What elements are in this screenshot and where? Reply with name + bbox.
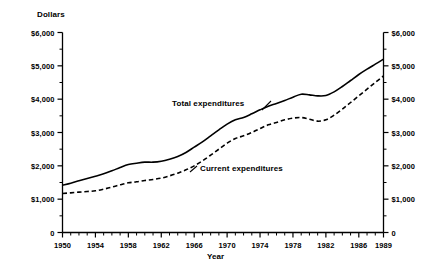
axes-group xyxy=(58,33,389,238)
annotation-leader-lines xyxy=(190,101,271,172)
plot-area xyxy=(0,0,442,280)
series-group xyxy=(63,59,384,193)
series-line-total-expenditures xyxy=(63,59,384,185)
expenditures-line-chart: Dollars Year $6,000$5,000$4,000$3,000$2,… xyxy=(0,0,442,280)
series-line-current-expenditures xyxy=(63,76,384,194)
